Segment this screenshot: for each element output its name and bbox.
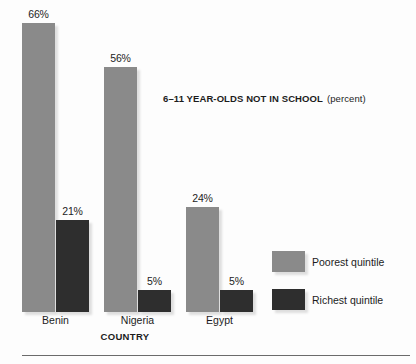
bar-value-benin-richest: 21% <box>56 205 89 217</box>
chart-title-main: 6–11 YEAR-OLDS NOT IN SCHOOL <box>163 93 323 104</box>
bar-chart: 66% 21% 56% 5% 24% 5% Benin Nigeria Egyp… <box>0 0 416 364</box>
bar-value-egypt-poorest: 24% <box>186 192 219 204</box>
chart-title-unit: (percent) <box>327 93 366 104</box>
bottom-divider <box>22 355 410 356</box>
bar-value-egypt-richest: 5% <box>220 275 253 287</box>
legend-swatch-poorest <box>272 251 305 272</box>
legend-swatch-richest <box>272 289 305 310</box>
cat-label-egypt: Egypt <box>186 314 253 326</box>
bar-egypt-poorest <box>186 207 219 312</box>
bar-nigeria-richest <box>138 290 171 312</box>
legend-label-poorest: Poorest quintile <box>312 256 384 268</box>
bar-benin-richest <box>56 220 89 312</box>
chart-title: 6–11 YEAR-OLDS NOT IN SCHOOL(percent) <box>163 93 366 104</box>
x-axis-title: COUNTRY <box>0 331 250 342</box>
bar-egypt-richest <box>220 290 253 312</box>
bar-value-nigeria-poorest: 56% <box>104 52 137 64</box>
bar-value-nigeria-richest: 5% <box>138 275 171 287</box>
bar-value-benin-poorest: 66% <box>22 8 55 20</box>
cat-label-benin: Benin <box>22 314 89 326</box>
cat-label-nigeria: Nigeria <box>104 314 171 326</box>
bar-benin-poorest <box>22 23 55 312</box>
bar-nigeria-poorest <box>104 67 137 312</box>
legend-label-richest: Richest quintile <box>312 294 383 306</box>
